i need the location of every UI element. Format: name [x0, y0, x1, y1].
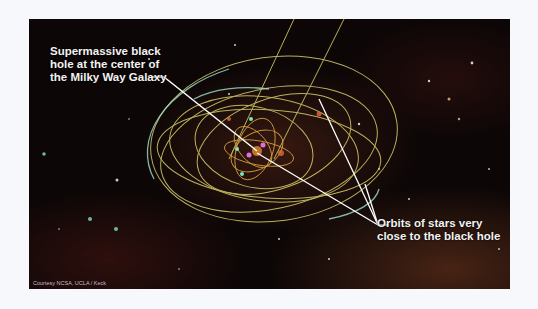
callout-line: close to the black hole: [377, 230, 500, 243]
galactic-center-image: Supermassive black hole at the center of…: [29, 19, 510, 289]
callout-line: hole at the center of: [50, 58, 167, 71]
callout-line: Orbits of stars very: [377, 217, 500, 230]
callout-line: the Milky Way Galaxy: [50, 71, 167, 84]
callout-line: Supermassive black: [50, 45, 167, 58]
orbits-callout: Orbits of stars very close to the black …: [377, 217, 500, 243]
image-credit: Courtesy NCSA, UCLA / Keck: [33, 280, 106, 286]
black-hole-callout: Supermassive black hole at the center of…: [50, 45, 167, 84]
